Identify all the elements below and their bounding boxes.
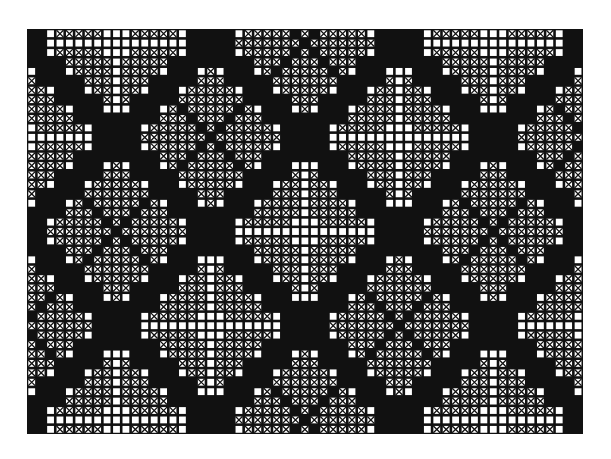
chart-grid xyxy=(27,29,583,434)
pattern-chart xyxy=(27,29,583,434)
